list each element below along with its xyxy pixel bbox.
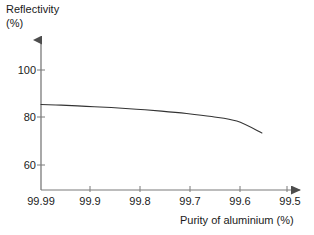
chart-figure: Reflectivity (%) Purity of aluminium (%)…: [0, 0, 314, 235]
plot-area: [0, 0, 314, 235]
x-axis-ticks: [90, 186, 287, 192]
reflectivity-curve: [41, 104, 262, 133]
